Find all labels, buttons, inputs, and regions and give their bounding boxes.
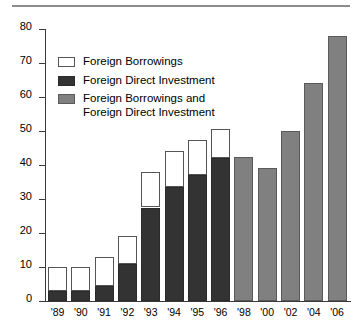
x-tick-label: '00 (254, 306, 280, 318)
bar-segment-combined (258, 168, 277, 301)
bar-segment-fdi (118, 264, 137, 301)
x-tick-label: '90 (68, 306, 94, 318)
y-tick-label: 50 (20, 123, 32, 134)
bar-group (258, 29, 277, 301)
bar-group (328, 29, 347, 301)
x-tick-label: '94 (161, 306, 187, 318)
x-tick-label: '95 (184, 306, 210, 318)
x-tick-label: '89 (45, 306, 71, 318)
bar-segment-borrowings (118, 236, 137, 263)
bar-group (281, 29, 300, 301)
x-tick-label: '92 (114, 306, 140, 318)
gray-swatch-icon (58, 94, 75, 104)
bar-segment-fdi (165, 187, 184, 301)
legend-item: Foreign Borrowings and Foreign Direct In… (58, 92, 248, 119)
chart-figure: 01020304050607080 '89'90'91'92'93'94'95'… (0, 0, 361, 335)
x-tick-label: '91 (91, 306, 117, 318)
bar-segment-borrowings (141, 172, 160, 208)
x-axis-line (45, 301, 351, 302)
dark-swatch-icon (58, 76, 75, 86)
y-tick-mark (39, 131, 45, 132)
bar-segment-borrowings (95, 257, 114, 286)
bar-segment-combined (304, 83, 323, 301)
x-tick-label: '02 (278, 306, 304, 318)
x-tick-label: '93 (138, 306, 164, 318)
x-tick-label: '04 (301, 306, 327, 318)
x-tick-label: '96 (208, 306, 234, 318)
bar-segment-borrowings (188, 140, 207, 176)
bar-segment-borrowings (71, 267, 90, 291)
y-tick-label: 60 (20, 89, 32, 100)
y-tick-label: 70 (20, 55, 32, 66)
bar-segment-fdi (48, 291, 67, 301)
bar-segment-borrowings (165, 151, 184, 187)
x-tick-label: '98 (231, 306, 257, 318)
y-tick-label: 0 (26, 293, 32, 304)
y-tick-mark (39, 301, 45, 302)
legend-item-label: Foreign Borrowings (83, 55, 183, 69)
y-tick-mark (39, 233, 45, 234)
y-tick-label: 30 (20, 191, 32, 202)
x-tick-label: '06 (324, 306, 350, 318)
y-tick-mark (39, 199, 45, 200)
white-swatch-icon (58, 57, 75, 67)
bar-segment-fdi (141, 208, 160, 302)
legend-item: Foreign Borrowings (58, 55, 248, 69)
y-tick-mark (39, 97, 45, 98)
y-tick-label: 40 (20, 157, 32, 168)
y-tick-mark (39, 165, 45, 166)
bar-group (304, 29, 323, 301)
y-tick-label: 80 (20, 21, 32, 32)
bar-segment-combined (328, 36, 347, 301)
y-tick-mark (39, 267, 45, 268)
y-tick-label: 10 (20, 259, 32, 270)
legend-item-label: Foreign Direct Investment (83, 74, 215, 88)
legend-item-label: Foreign Borrowings and Foreign Direct In… (83, 92, 215, 119)
bar-segment-fdi (211, 158, 230, 301)
y-tick-mark (39, 29, 45, 30)
bar-segment-fdi (188, 175, 207, 301)
bar-segment-borrowings (48, 267, 67, 291)
y-tick-label: 20 (20, 225, 32, 236)
bar-segment-borrowings (211, 129, 230, 158)
bar-segment-fdi (95, 286, 114, 301)
bar-segment-combined (281, 131, 300, 301)
legend-item: Foreign Direct Investment (58, 74, 248, 88)
top-divider-rule (12, 5, 350, 7)
y-axis-line (45, 29, 46, 302)
bar-segment-fdi (71, 291, 90, 301)
bar-segment-combined (234, 157, 253, 302)
y-tick-mark (39, 63, 45, 64)
chart-legend: Foreign BorrowingsForeign Direct Investm… (58, 55, 248, 124)
